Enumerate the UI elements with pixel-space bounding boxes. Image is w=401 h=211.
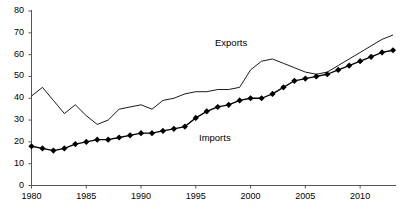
data-point-marker xyxy=(280,84,286,90)
chart-container: 01020304050607080 1980198519901995200020… xyxy=(0,0,401,211)
data-point-marker xyxy=(50,148,56,154)
data-point-marker xyxy=(291,78,297,84)
chart-plot-area xyxy=(0,0,401,211)
y-axis-tick-label: 60 xyxy=(2,50,24,59)
x-axis-tick-label: 1990 xyxy=(121,192,161,201)
data-point-marker xyxy=(302,76,308,82)
data-point-marker xyxy=(269,91,275,97)
data-point-marker xyxy=(226,102,232,108)
data-point-marker xyxy=(39,145,45,151)
y-axis-tick-label: 80 xyxy=(2,6,24,15)
x-axis-tick-label: 2000 xyxy=(231,192,271,201)
data-point-marker xyxy=(204,108,210,114)
data-point-marker xyxy=(61,145,67,151)
data-point-marker xyxy=(368,54,374,60)
data-point-marker xyxy=(149,130,155,136)
data-point-marker xyxy=(28,143,34,149)
data-point-marker xyxy=(127,132,133,138)
y-axis-tick-label: 50 xyxy=(2,71,24,80)
y-axis-tick-label: 20 xyxy=(2,137,24,146)
y-axis-tick-label: 10 xyxy=(2,159,24,168)
y-axis-tick-label: 0 xyxy=(2,181,24,190)
data-point-marker xyxy=(390,47,396,53)
series-line-exports xyxy=(32,35,394,124)
data-point-marker xyxy=(116,134,122,140)
x-axis-tick-label: 2010 xyxy=(340,192,380,201)
series-label-imports: Imports xyxy=(199,133,231,143)
x-axis-tick-label: 1980 xyxy=(12,192,52,201)
data-point-marker xyxy=(215,104,221,110)
data-point-marker xyxy=(83,139,89,145)
data-point-marker xyxy=(72,141,78,147)
x-axis-tick-label: 1995 xyxy=(176,192,216,201)
data-point-marker xyxy=(160,128,166,134)
y-axis-tick-label: 40 xyxy=(2,93,24,102)
x-axis-tick-label: 2005 xyxy=(285,192,325,201)
x-axis-tick-label: 1985 xyxy=(66,192,106,201)
data-point-marker xyxy=(335,67,341,73)
data-point-marker xyxy=(237,97,243,103)
data-point-marker xyxy=(105,137,111,143)
series-label-exports: Exports xyxy=(215,38,247,48)
y-axis-tick-label: 30 xyxy=(2,115,24,124)
data-point-marker xyxy=(346,62,352,68)
y-axis-tick-label: 70 xyxy=(2,28,24,37)
axes-group xyxy=(29,10,397,189)
data-point-marker xyxy=(171,126,177,132)
data-point-marker xyxy=(357,58,363,64)
data-point-marker xyxy=(379,49,385,55)
data-point-marker xyxy=(258,95,264,101)
data-point-marker xyxy=(247,95,253,101)
data-point-marker xyxy=(94,137,100,143)
data-point-marker xyxy=(138,130,144,136)
